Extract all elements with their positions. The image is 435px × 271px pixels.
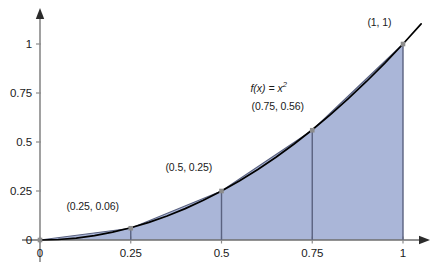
y-tick-label: 0.5 [16,136,32,148]
node-marker [219,189,224,194]
node-marker [310,128,315,133]
y-tick-label: 0 [26,234,32,246]
node-marker [128,226,133,231]
point-coordinate-label: (1, 1) [367,16,391,28]
node-marker [401,42,406,47]
point-coordinate-label: (0.75, 0.56) [252,100,305,112]
x-tick-label: 0.75 [301,247,323,259]
point-coordinate-label: (0.25, 0.06) [66,200,119,212]
x-tick-label: 0.5 [214,247,230,259]
function-label-exponent: 2 [283,80,287,89]
x-tick-label: 0.25 [120,247,142,259]
y-tick-label: 1 [26,38,32,50]
y-tick-label: 0.75 [10,87,32,99]
y-tick-label: 0.25 [10,185,32,197]
point-coordinate-label: (0.5, 0.25) [165,161,212,173]
y-axis-arrowhead [36,8,44,19]
node-marker [38,238,43,243]
function-label-base: f(x) = x [250,82,282,94]
x-tick-label: 0 [37,247,43,259]
function-equation-label: f(x) = x2 [250,80,287,94]
trapezoid-rule-chart: 00.250.50.751 00.250.50.751 (0.25, 0.06)… [0,0,435,271]
x-tick-label: 1 [400,247,406,259]
x-axis-arrowhead [419,236,430,244]
chart-canvas [0,0,435,271]
